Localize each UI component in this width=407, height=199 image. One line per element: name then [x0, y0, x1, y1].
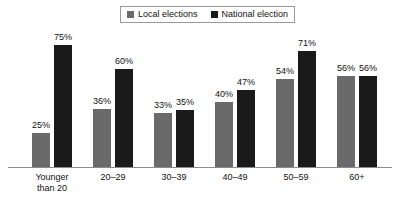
bar-value-label: 71%: [298, 39, 316, 48]
bar-local-elections: [337, 76, 355, 167]
bar-chart: Local elections National election 25% 75…: [0, 0, 407, 199]
bar-national-election: [298, 51, 316, 167]
bar-local-elections: [154, 113, 172, 167]
x-axis-category-label: 30–39: [146, 172, 202, 183]
bar-national-election: [115, 69, 133, 167]
plot-area: 25% 75% Younger than 20 36% 60% 20–29: [0, 0, 407, 199]
bar-wrap: 54%: [276, 27, 294, 167]
bar-value-label: 54%: [276, 67, 294, 76]
bar-national-election: [237, 90, 255, 167]
bar-local-elections: [276, 79, 294, 167]
bar-wrap: 25%: [32, 27, 50, 167]
x-axis-baseline: [8, 167, 392, 168]
bar-value-label: 75%: [54, 33, 72, 42]
bar-value-label: 36%: [93, 97, 111, 106]
bar-value-label: 47%: [237, 78, 255, 87]
bar-national-election: [359, 76, 377, 167]
bar-value-label: 40%: [215, 90, 233, 99]
bar-wrap: 56%: [359, 27, 377, 167]
bar-wrap: 75%: [54, 27, 72, 167]
bar-national-election: [176, 110, 194, 167]
bar-wrap: 33%: [154, 27, 172, 167]
bar-value-label: 35%: [176, 98, 194, 107]
bar-national-election: [54, 45, 72, 167]
bar-local-elections: [215, 102, 233, 167]
x-axis-category-label: Younger than 20: [24, 172, 80, 194]
x-axis-category-label: 60+: [329, 172, 385, 183]
x-axis-category-label: 20–29: [85, 172, 141, 183]
x-axis-category-label: 40–49: [207, 172, 263, 183]
bar-local-elections: [93, 109, 111, 167]
bar-wrap: 56%: [337, 27, 355, 167]
bar-wrap: 47%: [237, 27, 255, 167]
bar-group: 54% 71%: [268, 27, 324, 167]
bar-value-label: 33%: [154, 101, 172, 110]
bar-wrap: 40%: [215, 27, 233, 167]
bar-wrap: 36%: [93, 27, 111, 167]
bar-group: 25% 75%: [24, 27, 80, 167]
bar-wrap: 35%: [176, 27, 194, 167]
bar-group: 36% 60%: [85, 27, 141, 167]
bar-local-elections: [32, 133, 50, 167]
bar-group: 56% 56%: [329, 27, 385, 167]
bar-group: 33% 35%: [146, 27, 202, 167]
bar-value-label: 60%: [115, 57, 133, 66]
bar-value-label: 56%: [337, 64, 355, 73]
x-axis-category-label: 50–59: [268, 172, 324, 183]
bar-value-label: 56%: [359, 64, 377, 73]
bar-group: 40% 47%: [207, 27, 263, 167]
bar-wrap: 60%: [115, 27, 133, 167]
bar-wrap: 71%: [298, 27, 316, 167]
bar-value-label: 25%: [32, 121, 50, 130]
